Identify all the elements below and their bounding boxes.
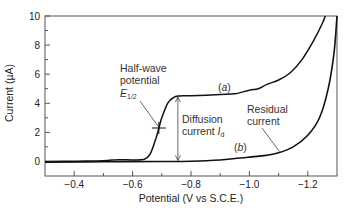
- half-wave-label-line1: Half-wave: [120, 62, 167, 74]
- y-tick-label: 10: [29, 11, 41, 22]
- y-tick-label: 6: [34, 69, 40, 80]
- x-tick-label: −0.8: [181, 179, 201, 190]
- residual-label-line2: current: [247, 115, 280, 127]
- curves: [45, 16, 337, 162]
- series-b-label: (b): [234, 141, 247, 153]
- y-axis-ticks: 0246810: [29, 11, 50, 167]
- half-wave-leader-line: [140, 101, 158, 126]
- half-wave-symbol: E1/2: [120, 87, 137, 100]
- x-tick-label: −1.2: [298, 179, 318, 190]
- y-tick-label: 0: [34, 156, 40, 167]
- x-tick-label: −0.4: [64, 179, 84, 190]
- polarogram-chart: −0.4−0.6−0.8−1.0−1.2 0246810 Potential (…: [0, 0, 359, 211]
- y-tick-label: 8: [34, 40, 40, 51]
- y-tick-label: 4: [34, 98, 40, 109]
- x-tick-label: −0.6: [123, 179, 143, 190]
- y-tick-label: 2: [34, 127, 40, 138]
- curve-a: [45, 16, 325, 162]
- residual-label-line1: Residual: [247, 103, 288, 115]
- residual-leader-line: [262, 128, 280, 152]
- half-wave-label-line2: potential: [120, 74, 160, 86]
- x-axis-ticks: −0.4−0.6−0.8−1.0−1.2: [64, 171, 318, 190]
- x-axis-title: Potential (V vs S.C.E.): [139, 192, 243, 204]
- x-tick-label: −1.0: [240, 179, 260, 190]
- y-axis-title: Current (µA): [3, 64, 15, 122]
- diffusion-label-line2: current Id: [182, 125, 225, 138]
- diffusion-label-line1: Diffusion: [182, 113, 223, 125]
- curve-b: [45, 16, 337, 162]
- series-a-label: (a): [218, 81, 231, 93]
